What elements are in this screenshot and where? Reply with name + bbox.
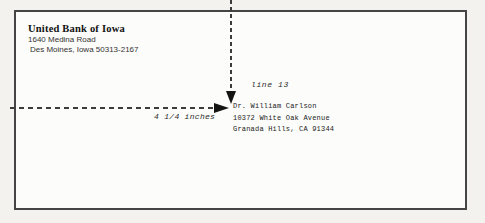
return-address-block: United Bank of Iowa 1640 Medina Road Des… bbox=[28, 23, 139, 54]
return-address-name: United Bank of Iowa bbox=[28, 23, 139, 35]
scanned-page: United Bank of Iowa 1640 Medina Road Des… bbox=[0, 0, 485, 223]
vertical-dashed-guide-line bbox=[230, 0, 232, 91]
recipient-address-block: Dr. William Carlson 10372 White Oak Aven… bbox=[233, 101, 334, 136]
return-address-city: Des Moines, Iowa 50313-2167 bbox=[28, 45, 139, 55]
horizontal-dashed-guide-line bbox=[10, 107, 214, 109]
recipient-name: Dr. William Carlson bbox=[233, 101, 334, 113]
inches-annotation: 4 1/4 inches bbox=[154, 112, 215, 121]
return-address-street: 1640 Medina Road bbox=[28, 35, 139, 45]
recipient-street: 10372 White Oak Avenue bbox=[233, 113, 334, 125]
recipient-city: Granada Hills, CA 91344 bbox=[233, 124, 334, 136]
right-arrow-icon bbox=[214, 103, 229, 113]
line-13-annotation: line 13 bbox=[251, 80, 289, 89]
